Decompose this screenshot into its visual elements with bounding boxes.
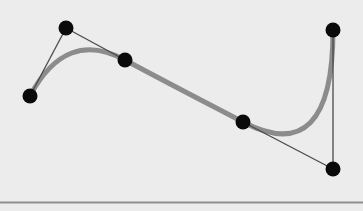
control-point-p1[interactable]: [59, 21, 74, 36]
control-point-p4[interactable]: [326, 23, 341, 38]
bezier-diagram: [0, 0, 363, 211]
control-point-p2[interactable]: [118, 53, 133, 68]
control-point-p5[interactable]: [326, 162, 341, 177]
diagram-background: [0, 0, 363, 211]
bezier-curve-canvas: [0, 0, 363, 211]
control-point-p3[interactable]: [236, 115, 251, 130]
control-point-p0[interactable]: [23, 89, 38, 104]
